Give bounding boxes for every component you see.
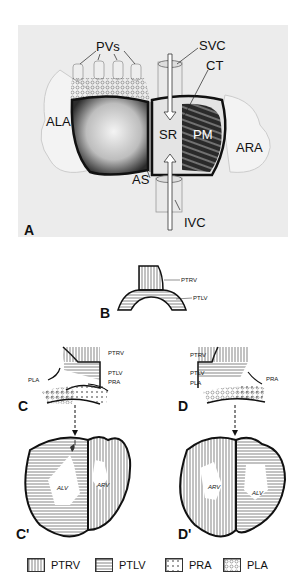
label-c-pla: PLA [28,377,39,383]
panel-b-diagram [118,266,192,310]
panel-label-b: B [100,305,110,321]
legend-label: PTLV [119,559,146,571]
diagram-canvas [0,0,305,584]
panel-label-c-prime: C' [16,526,29,542]
label-sr: SR [159,127,177,142]
legend-label: PLA [247,559,268,571]
label-d-prime-arv: ARV [208,484,220,490]
label-as: AS [132,172,149,187]
label-c-prime-arv: ARV [97,482,109,488]
label-d-prime-alv: ALV [252,490,263,496]
panel-c-diagram [42,347,108,436]
label-ct: CT [206,58,223,73]
label-d-pla: PLA [190,380,201,386]
panel-label-d-prime: D' [178,526,191,542]
horizontal-lines-swatch-icon [95,558,113,572]
crosses-swatch-icon [165,558,183,572]
label-pvs: PVs [96,39,120,54]
label-svc: SVC [199,38,226,53]
panel-c-prime-diagram [25,437,130,536]
label-d-ptlv: PTLV [190,370,205,376]
legend: PTRV PTLV PRA PLA [27,557,287,573]
panel-d-prime-diagram [180,438,285,537]
label-d-ptrv: PTRV [190,352,206,358]
label-ara: ARA [236,140,263,155]
label-ala: ALA [46,114,71,129]
label-c-ptlv: PTLV [108,370,123,376]
legend-label: PTRV [51,559,80,571]
label-c-ptrv: PTRV [108,350,124,356]
label-d-pra: PRA [266,376,278,382]
circles-swatch-icon [223,558,241,572]
label-b-ptrv: PTRV [181,277,197,283]
vertical-lines-swatch-icon [27,558,45,572]
panel-label-c: C [18,398,28,414]
label-b-ptlv: PTLV [193,295,208,301]
panel-label-d: D [178,398,188,414]
panel-d-diagram [198,347,265,436]
label-c-pra: PRA [108,379,120,385]
label-pm: PM [193,127,213,142]
label-ivc: IVC [184,215,206,230]
panel-label-a: A [24,222,34,238]
label-c-prime-alv: ALV [57,485,68,491]
legend-label: PRA [189,559,212,571]
